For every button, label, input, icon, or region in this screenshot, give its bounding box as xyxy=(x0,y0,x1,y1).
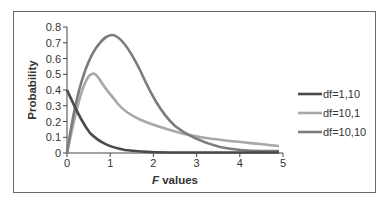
y-tick-labels: 0 0.1 0.2 0.3 0.4 0.5 0.6 0.7 0.8 xyxy=(46,21,61,159)
y-tick-label: 0.2 xyxy=(46,116,61,128)
legend-item-df-10-10: df=10,10 xyxy=(298,126,366,138)
legend: df=1,10 df=10,1 df=10,10 xyxy=(298,88,366,138)
x-tick-label: 0 xyxy=(64,157,70,169)
x-tick-label: 2 xyxy=(150,157,156,169)
legend-item-df-10-1: df=10,1 xyxy=(298,107,360,119)
y-ticks xyxy=(63,27,67,153)
y-tick-label: 0 xyxy=(55,147,61,159)
x-tick-label: 4 xyxy=(237,157,243,169)
legend-label: df=1,10 xyxy=(323,88,360,100)
x-tick-labels: 0 1 2 3 4 5 xyxy=(64,157,286,169)
y-tick-label: 0.1 xyxy=(46,131,61,143)
y-tick-label: 0.4 xyxy=(46,84,61,96)
y-tick-label: 0.7 xyxy=(46,37,61,49)
x-tick-label: 1 xyxy=(107,157,113,169)
legend-label: df=10,1 xyxy=(323,107,360,119)
x-axis-title-rest: values xyxy=(159,174,198,186)
series-df-10-10 xyxy=(67,35,279,153)
y-axis-title: Probability xyxy=(26,60,38,120)
y-tick-label: 0.5 xyxy=(46,68,61,80)
legend-label: df=10,10 xyxy=(323,126,366,138)
y-tick-label: 0.3 xyxy=(46,100,61,112)
y-tick-label: 0.8 xyxy=(46,21,61,33)
x-tick-label: 5 xyxy=(280,157,286,169)
x-tick-label: 3 xyxy=(194,157,200,169)
f-distribution-chart: 0 0.1 0.2 0.3 0.4 0.5 0.6 0.7 0.8 0 1 2 … xyxy=(0,0,387,203)
x-axis-title: F values xyxy=(152,174,198,186)
legend-item-df-1-10: df=1,10 xyxy=(298,88,360,100)
y-tick-label: 0.6 xyxy=(46,53,61,65)
